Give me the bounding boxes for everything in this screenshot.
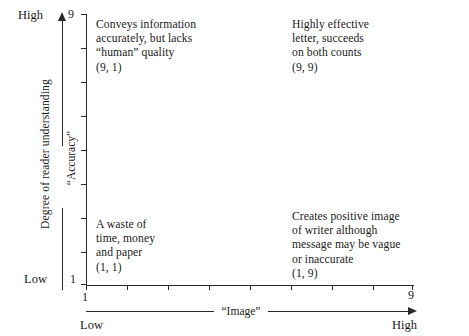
y-tick-2: [81, 252, 86, 253]
x-tick-label-9: 9: [408, 288, 414, 303]
x-tick-4: [209, 285, 210, 290]
x-tick-7: [332, 285, 333, 290]
arrow-right-icon: [408, 307, 417, 315]
y-tick-5: [81, 150, 86, 151]
y-tick-4: [81, 184, 86, 185]
y-tick-label-1: 1: [70, 272, 76, 287]
x-arrow-shaft-right: [268, 311, 409, 312]
y-tick-8: [81, 48, 86, 49]
y-arrow-shaft-lower: [62, 208, 63, 290]
quadrant-label-bottom-right: Creates positive image of writer althoug…: [292, 210, 452, 281]
y-tick-3: [81, 218, 86, 219]
x-axis-high-label: High: [392, 318, 417, 333]
x-tick-2: [127, 285, 128, 290]
x-axis-direction-arrow: “Image”: [86, 305, 418, 319]
y-tick-label-9: 9: [68, 7, 74, 22]
x-tick-8: [373, 285, 374, 290]
y-axis-line: [86, 14, 87, 286]
y-tick-7: [81, 82, 86, 83]
quadrant-label-bottom-left: A waste of time, money and paper (1, 1): [96, 218, 226, 275]
y-axis-inner-title: “Accuracy”: [65, 125, 77, 191]
x-tick-5: [250, 285, 251, 290]
x-tick-6: [291, 285, 292, 290]
y-tick-9: [81, 14, 86, 15]
quadrant-matrix-figure: Degree of reader understanding High Low …: [0, 0, 469, 336]
plot-area: Conveys information accurately, but lack…: [86, 14, 414, 286]
x-arrow-shaft-left: [86, 311, 214, 312]
quadrant-label-top-right: Highly effective letter, succeeds on bot…: [292, 18, 422, 75]
x-axis-low-label: Low: [80, 318, 103, 333]
y-axis-high-label: High: [18, 8, 43, 23]
y-axis-low-label: Low: [24, 272, 47, 287]
y-tick-6: [81, 116, 86, 117]
x-tick-3: [168, 285, 169, 290]
x-tick-label-1: 1: [82, 290, 88, 305]
quadrant-label-top-left: Conveys information accurately, but lack…: [96, 18, 256, 75]
x-axis-title: “Image”: [214, 305, 268, 317]
y-arrow-shaft-upper: [62, 18, 63, 146]
y-axis-outer-title: Degree of reader understanding: [39, 24, 51, 284]
